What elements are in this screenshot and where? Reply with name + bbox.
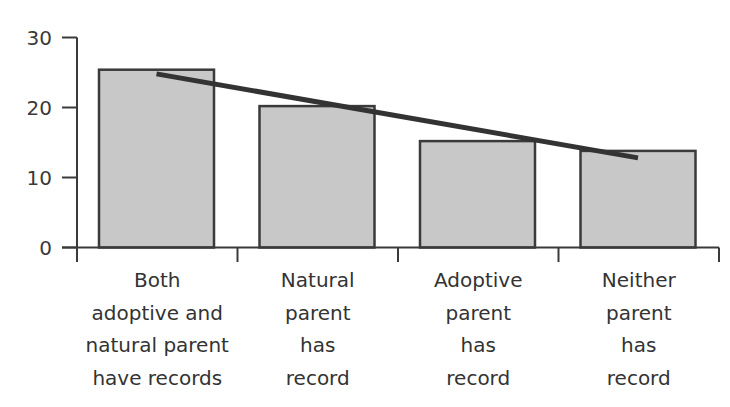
- category-label: Natural: [281, 268, 355, 292]
- category-label: natural parent: [86, 333, 230, 357]
- y-tick-label: 0: [39, 236, 52, 260]
- category-label: Neither: [602, 268, 677, 292]
- category-label: adoptive and: [92, 301, 223, 325]
- category-label: parent: [606, 301, 672, 325]
- category-label: record: [286, 366, 350, 390]
- bar-chart: 0102030 Bothadoptive andnatural parentha…: [0, 0, 730, 407]
- category-label: has: [461, 333, 496, 357]
- category-label: parent: [445, 301, 511, 325]
- y-axis: 0102030: [27, 26, 77, 263]
- bar: [581, 151, 696, 248]
- y-tick-label: 20: [27, 96, 52, 120]
- trend-line: [157, 74, 639, 158]
- trend-line-path: [157, 74, 639, 158]
- y-tick-label: 30: [27, 26, 52, 50]
- category-labels: Bothadoptive andnatural parenthave recor…: [86, 268, 677, 390]
- category-label: have records: [92, 366, 222, 390]
- category-label: has: [621, 333, 656, 357]
- category-label: parent: [285, 301, 351, 325]
- category-label: Adoptive: [434, 268, 523, 292]
- bar: [260, 106, 375, 247]
- x-axis: [62, 248, 719, 263]
- category-label: Both: [134, 268, 180, 292]
- bar: [420, 141, 535, 247]
- bars: [99, 70, 696, 248]
- bar: [99, 70, 214, 248]
- category-label: has: [300, 333, 335, 357]
- category-label: record: [446, 366, 510, 390]
- category-label: record: [607, 366, 671, 390]
- y-tick-label: 10: [27, 166, 52, 190]
